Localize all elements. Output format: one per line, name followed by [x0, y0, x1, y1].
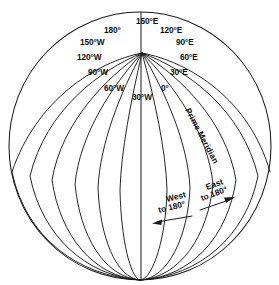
label-120e: 120°E	[160, 25, 183, 35]
label-60e: 60°E	[180, 52, 198, 62]
label-150e: 150°E	[136, 16, 159, 26]
label-120w: 120°W	[77, 52, 102, 62]
label-30e: 30°E	[170, 67, 188, 77]
label-180: 180°	[104, 25, 121, 35]
label-150w: 150°W	[80, 37, 105, 47]
label-30w: 30°W	[132, 92, 152, 102]
sphere-outline	[9, 12, 271, 280]
globe-svg-canvas: 180° 150°E 120°E 90°E 60°E 30°E 0° 30°W …	[0, 0, 279, 285]
label-90w: 90°W	[88, 67, 108, 77]
globe-longitude-diagram: 180° 150°E 120°E 90°E 60°E 30°E 0° 30°W …	[0, 0, 279, 285]
label-0: 0°	[161, 83, 169, 93]
label-90e: 90°E	[176, 37, 194, 47]
label-60w: 60°W	[104, 83, 124, 93]
